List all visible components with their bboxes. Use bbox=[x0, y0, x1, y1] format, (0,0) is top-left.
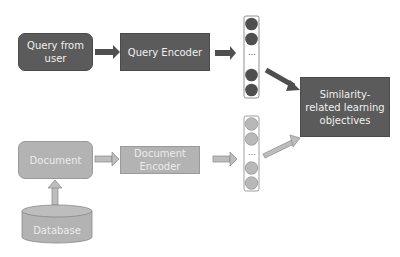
arrow-database-to-document bbox=[48, 180, 62, 205]
query-encoder-label: Query Encoder bbox=[128, 46, 202, 59]
arrow-encoder-to-document-vector bbox=[213, 152, 237, 166]
arrow-document-to-encoder bbox=[95, 152, 119, 166]
similarity-objectives-label: Similarity-related learning objectives bbox=[305, 88, 385, 127]
query-embedding-vector bbox=[244, 16, 259, 98]
arrow-encoder-to-query-vector bbox=[215, 46, 236, 60]
arrow-query-to-encoder bbox=[95, 45, 120, 59]
document-vector-ellipsis: ... bbox=[245, 149, 259, 157]
query-encoder-box: Query Encoder bbox=[120, 33, 210, 71]
database-label: Database bbox=[33, 224, 81, 237]
query-from-user-label: Query from user bbox=[19, 39, 92, 65]
query-vector-ellipsis: ... bbox=[245, 49, 259, 57]
document-label: Document bbox=[30, 154, 82, 167]
document-encoder-box: Document Encoder bbox=[120, 146, 200, 174]
similarity-objectives-box: Similarity-related learning objectives bbox=[300, 77, 390, 137]
document-encoder-label: Document Encoder bbox=[131, 147, 189, 173]
database-box: Database bbox=[22, 220, 92, 240]
arrow-query-vector-to-objective bbox=[266, 70, 300, 91]
arrow-document-vector-to-objective bbox=[263, 135, 300, 158]
query-from-user-box: Query from user bbox=[18, 33, 93, 71]
document-box: Document bbox=[18, 141, 93, 179]
